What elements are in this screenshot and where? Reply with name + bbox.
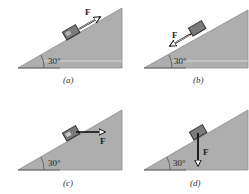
angle-label-d: 30° [173, 158, 186, 168]
force-label-d: F [203, 147, 209, 157]
force-label-b: F [172, 30, 178, 40]
caption-a: (a) [63, 75, 74, 85]
angle-label-b: 30° [174, 56, 187, 66]
panel-d: F 30° (d) [144, 110, 248, 188]
block-b [188, 21, 205, 36]
caption-b: (b) [193, 75, 204, 85]
angle-label-c: 30° [48, 158, 61, 168]
force-label-a: F [85, 7, 91, 17]
caption-c: (c) [63, 178, 73, 188]
incline-c [18, 110, 122, 170]
incline-force-diagram: F 30° (a) F 30° (b) F 30° (c) [0, 0, 249, 194]
panel-c: F 30° (c) [18, 110, 122, 188]
angle-label-a: 30° [48, 56, 61, 66]
caption-d: (d) [190, 178, 201, 188]
panel-b: F 30° (b) [144, 10, 248, 85]
incline-d [144, 110, 248, 170]
panel-a: F 30° (a) [18, 7, 122, 85]
incline-b [144, 10, 248, 68]
force-label-c: F [100, 136, 106, 146]
